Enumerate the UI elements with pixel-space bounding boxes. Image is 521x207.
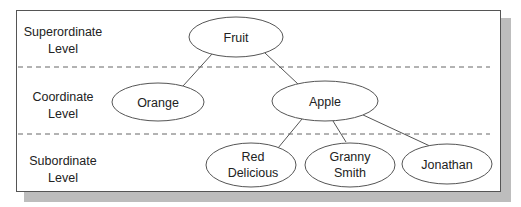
node-red-delicious: Red Delicious [206, 143, 296, 187]
node-label: Smith [334, 166, 366, 180]
node-apple: Apple [272, 81, 378, 121]
node-fruit: Fruit [189, 17, 283, 57]
edge-apple-jonathan [361, 114, 432, 147]
node-label: Orange [137, 96, 179, 110]
node-label: Granny [330, 150, 372, 164]
node-jonathan: Jonathan [402, 144, 492, 184]
node-label: Apple [309, 95, 341, 109]
node-granny-smith: Granny Smith [305, 143, 395, 187]
edge-fruit-orange [183, 54, 212, 86]
edge-apple-granny-smith [333, 121, 346, 142]
node-label: Jonathan [421, 158, 472, 172]
node-label: Fruit [224, 31, 250, 45]
node-label: Red [242, 150, 265, 164]
hierarchy-diagram: Fruit Orange Apple Red Delicious Granny … [0, 0, 521, 207]
node-orange: Orange [112, 83, 204, 121]
node-label: Delicious [228, 166, 279, 180]
edge-fruit-apple [265, 53, 298, 84]
